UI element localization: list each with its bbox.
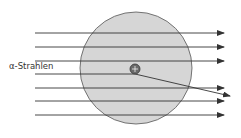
nucleus-icon bbox=[130, 64, 140, 74]
rutherford-diagram: α-Strahlen bbox=[0, 0, 241, 138]
alpha-rays-label: α-Strahlen bbox=[9, 61, 53, 71]
